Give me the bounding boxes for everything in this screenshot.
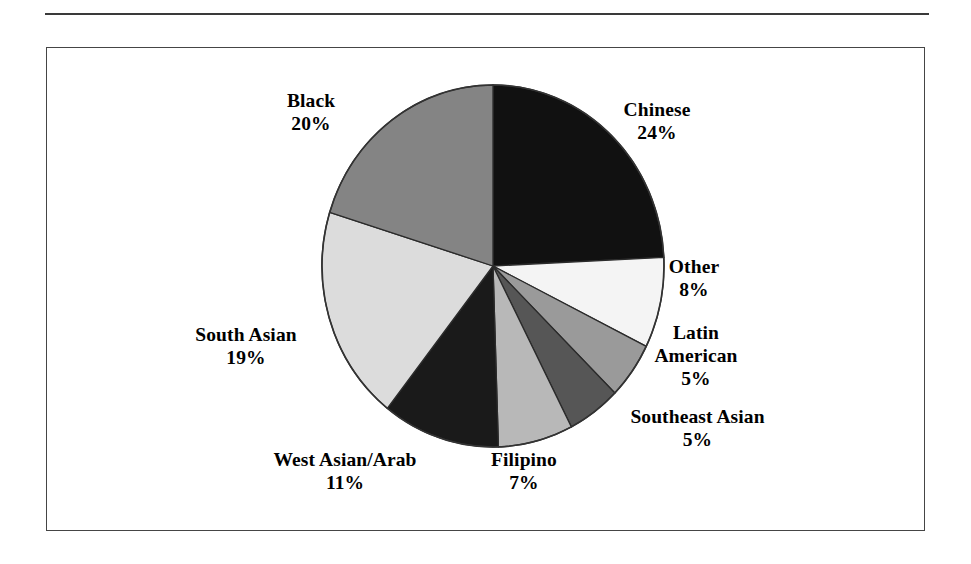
pie-label-southeast-asian-name: Southeast Asian (575, 405, 820, 428)
pie-label-other: Other 8% (634, 255, 754, 301)
figure-frame: Black 20% Chinese 24% Other 8% Latin Ame… (46, 47, 925, 531)
pie-label-other-name: Other (634, 255, 754, 278)
pie-label-west-asian-arab-name: West Asian/Arab (210, 448, 480, 471)
top-horizontal-rule (45, 13, 929, 15)
pie-label-black: Black 20% (246, 89, 376, 135)
pie-label-west-asian-arab-value: 11% (210, 471, 480, 494)
pie-label-latin-american: Latin American 5% (621, 321, 771, 390)
page-canvas: Black 20% Chinese 24% Other 8% Latin Ame… (0, 0, 971, 564)
pie-label-southeast-asian-value: 5% (575, 428, 820, 451)
pie-label-latin-american-value: 5% (621, 367, 771, 390)
pie-label-black-name: Black (246, 89, 376, 112)
pie-chart: Black 20% Chinese 24% Other 8% Latin Ame… (47, 48, 924, 530)
pie-label-chinese-value: 24% (582, 121, 732, 144)
pie-label-south-asian-value: 19% (151, 346, 341, 369)
pie-label-chinese-name: Chinese (582, 98, 732, 121)
pie-label-west-asian-arab: West Asian/Arab 11% (210, 448, 480, 494)
pie-label-other-value: 8% (634, 278, 754, 301)
pie-label-south-asian: South Asian 19% (151, 323, 341, 369)
pie-label-black-value: 20% (246, 112, 376, 135)
pie-label-south-asian-name: South Asian (151, 323, 341, 346)
pie-label-latin-american-line1: Latin (621, 321, 771, 344)
pie-label-latin-american-line2: American (621, 344, 771, 367)
pie-label-southeast-asian: Southeast Asian 5% (575, 405, 820, 451)
pie-label-chinese: Chinese 24% (582, 98, 732, 144)
